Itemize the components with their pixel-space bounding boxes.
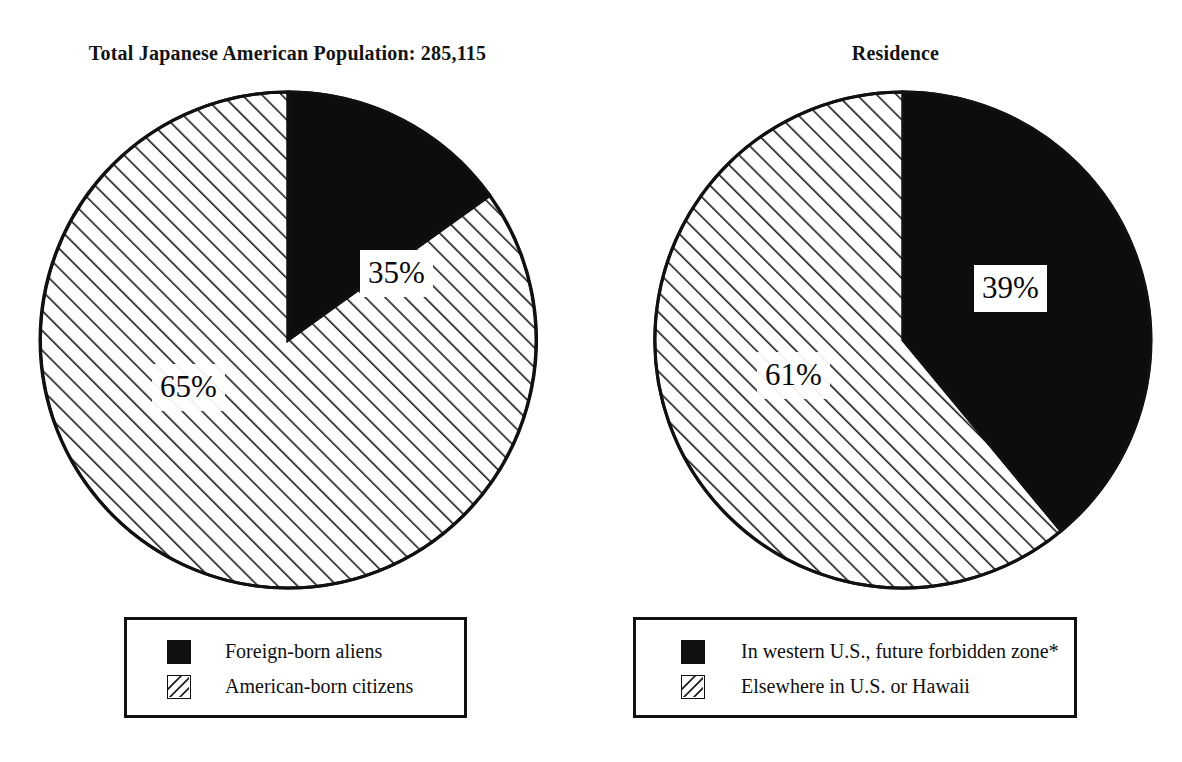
slice-value-foreign-born: 35% [360, 250, 433, 297]
legend-population: Foreign-born aliens American-born citize… [124, 617, 467, 718]
legend-swatch-hatch-icon [681, 675, 705, 699]
slice-value-elsewhere: 61% [757, 352, 830, 399]
legend-residence: In western U.S., future forbidden zone* … [633, 617, 1077, 718]
panel-population: Total Japanese American Population: 285,… [0, 0, 591, 762]
panel-residence: Residence 39% 61% In wes [591, 0, 1182, 762]
slice-value-forbidden-zone: 39% [974, 265, 1047, 312]
pie-chart-residence [653, 90, 1153, 590]
legend-item-forbidden-zone: In western U.S., future forbidden zone* [636, 634, 1074, 669]
legend-item-foreign-born: Foreign-born aliens [127, 634, 464, 669]
legend-swatch-solid-icon [681, 640, 705, 664]
slice-value-american-born: 65% [152, 364, 225, 411]
page-title-residence: Residence [600, 42, 1182, 65]
legend-label-foreign-born: Foreign-born aliens [225, 640, 382, 663]
pie-chart-population [38, 90, 538, 590]
legend-item-elsewhere: Elsewhere in U.S. or Hawaii [636, 669, 1074, 704]
legend-label-elsewhere: Elsewhere in U.S. or Hawaii [741, 675, 970, 698]
legend-swatch-hatch-icon [167, 675, 191, 699]
legend-item-american-born: American-born citizens [127, 669, 464, 704]
page-title-population: Total Japanese American Population: 285,… [0, 42, 583, 65]
legend-swatch-solid-icon [167, 640, 191, 664]
figure-pie-charts: Total Japanese American Population: 285,… [0, 0, 1182, 762]
legend-label-forbidden-zone: In western U.S., future forbidden zone* [741, 640, 1059, 663]
legend-label-american-born: American-born citizens [225, 675, 413, 698]
